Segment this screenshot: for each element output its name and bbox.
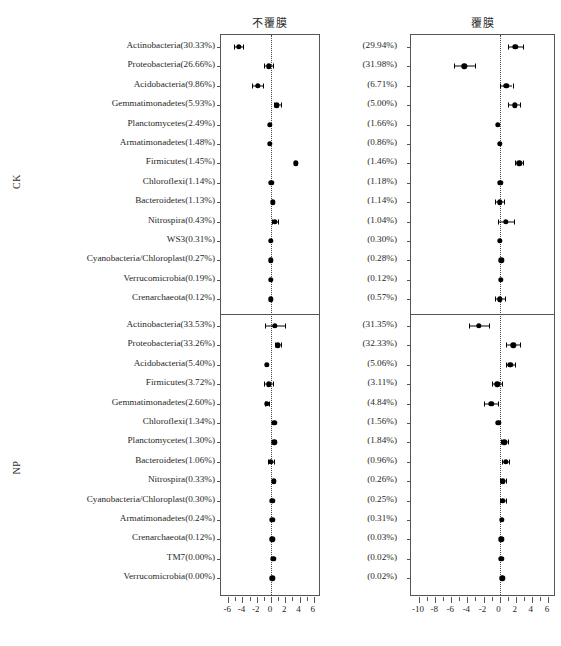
percent-label: (4.84%)	[367, 398, 397, 407]
data-point	[270, 575, 275, 580]
row-tick	[217, 501, 221, 502]
taxa-label: Cyanobacteria/Chloroplast(0.30%)	[87, 495, 215, 504]
x-axis-minor-tick	[475, 597, 476, 601]
x-axis-minor-tick	[443, 597, 444, 601]
data-point	[268, 277, 273, 282]
percent-label: (6.71%)	[367, 80, 397, 89]
data-point	[270, 556, 275, 561]
data-point	[264, 362, 269, 367]
row-tick	[407, 299, 411, 300]
data-point	[270, 517, 275, 522]
row-tick	[407, 559, 411, 560]
x-axis-tick	[228, 597, 229, 603]
data-point	[498, 277, 503, 282]
row-tick	[407, 578, 411, 579]
data-point	[255, 83, 260, 88]
x-axis-tick	[500, 597, 501, 603]
data-point	[508, 362, 513, 367]
percent-label: (0.86%)	[367, 138, 397, 147]
taxa-label: Nitrospira(0.43%)	[148, 216, 215, 225]
data-point	[502, 440, 507, 445]
data-point	[268, 258, 273, 263]
error-bar-cap	[273, 64, 274, 69]
error-bar-cap	[265, 324, 266, 329]
data-point	[513, 44, 518, 49]
taxa-label: Nitrospira(0.33%)	[148, 475, 215, 484]
x-axis-minor-tick	[292, 597, 293, 601]
x-axis-minor-tick	[540, 597, 541, 601]
taxa-label: Proteobacteria(26.66%)	[127, 60, 215, 69]
data-point	[498, 180, 503, 185]
percent-label: (1.04%)	[367, 216, 397, 225]
row-tick	[217, 105, 221, 106]
x-axis-tick	[314, 597, 315, 603]
zero-reference-line	[500, 35, 501, 595]
taxa-label: Firmicutes(1.45%)	[146, 157, 215, 166]
error-bar-cap	[508, 103, 509, 108]
data-point	[497, 296, 502, 301]
data-point	[500, 478, 505, 483]
percent-label: (0.31%)	[367, 514, 397, 523]
row-tick	[407, 520, 411, 521]
percent-label: (0.02%)	[367, 553, 397, 562]
row-tick	[217, 559, 221, 560]
percent-label: (1.56%)	[367, 417, 397, 426]
taxa-label: Armatimonadetes(0.24%)	[120, 514, 215, 523]
x-axis-minor-tick	[307, 597, 308, 601]
row-tick	[407, 105, 411, 106]
error-bar-cap	[243, 45, 244, 50]
taxa-label: Gemmatimonadetes(5.93%)	[112, 99, 215, 108]
row-tick	[217, 423, 221, 424]
row-tick	[217, 345, 221, 346]
row-tick	[407, 462, 411, 463]
x-axis-tick-label: -6	[447, 604, 455, 614]
percent-label: (0.12%)	[367, 274, 397, 283]
row-tick	[407, 183, 411, 184]
panel-section-divider	[411, 314, 554, 315]
x-axis-tick	[257, 597, 258, 603]
taxa-label: Acidobacteria(5.40%)	[134, 359, 215, 368]
error-bar-cap	[285, 324, 286, 329]
percent-label: (1.18%)	[367, 177, 397, 186]
error-bar-cap	[508, 440, 509, 445]
taxa-label: TM7(0.00%)	[167, 553, 215, 562]
x-axis-tick-label: -4	[238, 604, 246, 614]
x-axis-minor-tick	[427, 597, 428, 601]
error-bar-cap	[506, 498, 507, 503]
taxa-label: Verrucomicrobia(0.19%)	[123, 274, 215, 283]
data-point	[511, 343, 516, 348]
data-point	[517, 161, 522, 166]
data-point	[269, 180, 274, 185]
x-axis-tick	[435, 597, 436, 603]
x-axis-tick	[285, 597, 286, 603]
taxa-label: Actinobacteria(33.53%)	[126, 320, 215, 329]
data-point	[275, 343, 280, 348]
row-tick	[407, 144, 411, 145]
row-tick	[217, 241, 221, 242]
taxa-label: WS3(0.31%)	[167, 235, 215, 244]
error-bar-cap	[514, 219, 515, 224]
error-bar-cap	[509, 459, 510, 464]
row-tick	[217, 442, 221, 443]
row-tick	[217, 202, 221, 203]
group-label-ck: CK	[11, 172, 22, 192]
percent-label: (0.26%)	[367, 475, 397, 484]
x-axis-tick	[516, 597, 517, 603]
error-bar-cap	[498, 219, 499, 224]
taxa-label: Bacteroidetes(1.13%)	[135, 196, 215, 205]
error-bar-cap	[506, 479, 507, 484]
row-tick	[217, 125, 221, 126]
error-bar-cap	[513, 83, 514, 88]
data-point	[271, 478, 276, 483]
row-tick	[407, 365, 411, 366]
panel-mulch	[410, 34, 555, 596]
x-axis-tick	[419, 597, 420, 603]
error-bar-cap	[515, 362, 516, 367]
percent-label: (1.66%)	[367, 119, 397, 128]
row-tick	[407, 241, 411, 242]
x-axis-minor-tick	[264, 597, 265, 601]
percent-label-column: (29.94%)(31.98%)(6.71%)(5.00%)(1.66%)(0.…	[325, 0, 397, 646]
taxa-label-column: Actinobacteria(30.33%)Proteobacteria(26.…	[30, 0, 215, 646]
data-point	[488, 401, 493, 406]
data-point	[503, 219, 508, 224]
